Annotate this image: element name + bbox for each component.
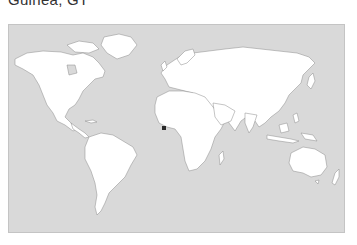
landmass-caribbean xyxy=(85,120,97,123)
landmass-new-guinea xyxy=(301,133,317,141)
landmass-new-zealand xyxy=(332,169,339,185)
water-hudson-bay xyxy=(67,65,77,75)
landmass-north-america xyxy=(15,51,105,131)
landmass-australia xyxy=(289,147,327,177)
landmass-madagascar xyxy=(219,151,224,165)
landmass-greenland xyxy=(101,34,137,59)
landmass-south-america xyxy=(85,133,137,215)
landmass-india xyxy=(245,113,257,133)
page-title: Guinea, GT xyxy=(8,0,89,8)
landmass-indonesia xyxy=(267,135,299,143)
landmass-philippines xyxy=(293,113,299,123)
landmass-tasmania xyxy=(315,180,319,184)
landmass-japan xyxy=(307,73,315,89)
landmass-borneo xyxy=(279,123,289,133)
landmass-arctic-islands xyxy=(67,41,99,53)
world-map[interactable] xyxy=(8,24,345,233)
world-map-svg xyxy=(9,25,345,233)
location-marker[interactable] xyxy=(162,126,166,130)
